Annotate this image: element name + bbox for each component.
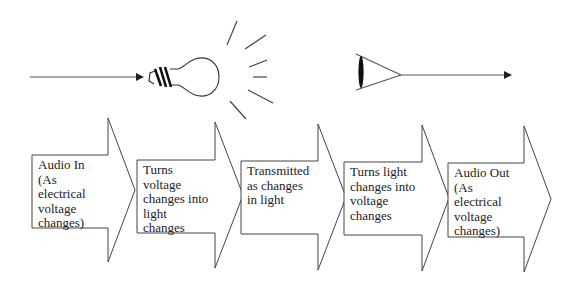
step-3-label: Transmitted as changes in light (247, 164, 309, 208)
light-rays-icon (227, 21, 273, 119)
light-bulb-icon (149, 58, 219, 96)
input-arrow (30, 73, 144, 81)
diagram-canvas (0, 0, 574, 286)
step-2-label: Turns voltage changes into light changes (143, 163, 208, 236)
step-5-label: Audio Out (As electrical voltage changes… (454, 166, 509, 239)
output-arrow (401, 71, 512, 79)
step-1-label: Audio In (As electrical voltage changes) (38, 158, 86, 231)
step-4-label: Turns light changes into voltage changes (350, 165, 415, 223)
eye-lens-icon (356, 54, 401, 90)
